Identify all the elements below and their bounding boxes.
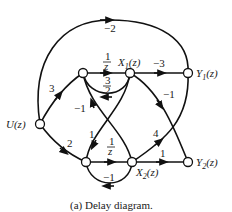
gain-x1-y2: −1 (163, 88, 175, 100)
label-y2: Y2(z) (196, 156, 218, 171)
node-y1 (184, 69, 193, 78)
svg-text:z: z (103, 60, 109, 72)
figure-caption: (a) Delay diagram. (70, 199, 153, 212)
gain-u-n1: 3 (49, 82, 55, 94)
gain-x2-n2: −1 (103, 171, 115, 183)
gain-n1-x1: 1 z (103, 50, 111, 72)
edge-u-y1 (38, 20, 188, 124)
svg-text:2: 2 (105, 84, 111, 96)
gain-x2-y2: 1 (160, 147, 166, 159)
node-n2 (82, 158, 91, 167)
gain-x2-n1: −1 (74, 102, 86, 114)
gain-x2-y1: 4 (153, 127, 159, 139)
delay-diagram: U(z) X1(z) Y1(z) X2(z) Y2(z) 3 2 −2 1 z … (0, 0, 232, 212)
node-u (36, 120, 45, 129)
edge-u-n2 (40, 124, 86, 162)
gain-x1-n1: 3 2 (103, 74, 111, 96)
svg-text:z: z (107, 145, 113, 157)
label-x2: X2(z) (135, 166, 159, 181)
label-y1: Y1(z) (196, 67, 218, 82)
gain-u-y1: −2 (104, 22, 116, 34)
node-n1 (79, 69, 88, 78)
edge-u-n1 (40, 73, 83, 124)
gain-u-n2: 2 (67, 137, 73, 149)
gain-n2-x2: 1 z (107, 135, 115, 157)
gain-x1-n2: 1 (89, 128, 95, 140)
node-y2 (184, 158, 193, 167)
gain-x1-y1: −3 (153, 57, 165, 69)
label-u: U(z) (6, 118, 26, 131)
